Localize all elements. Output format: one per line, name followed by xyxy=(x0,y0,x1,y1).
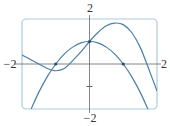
chart: 2 −2 −2 2 xyxy=(0,0,170,126)
x-tick-label-left: −2 xyxy=(4,57,17,71)
marked-point xyxy=(54,62,57,65)
x-tick-label-right: 2 xyxy=(161,57,167,71)
marked-point xyxy=(88,40,91,43)
y-tick-label-top: 2 xyxy=(87,1,93,15)
marked-point xyxy=(122,62,125,65)
y-tick-label-bottom: −2 xyxy=(84,111,97,125)
